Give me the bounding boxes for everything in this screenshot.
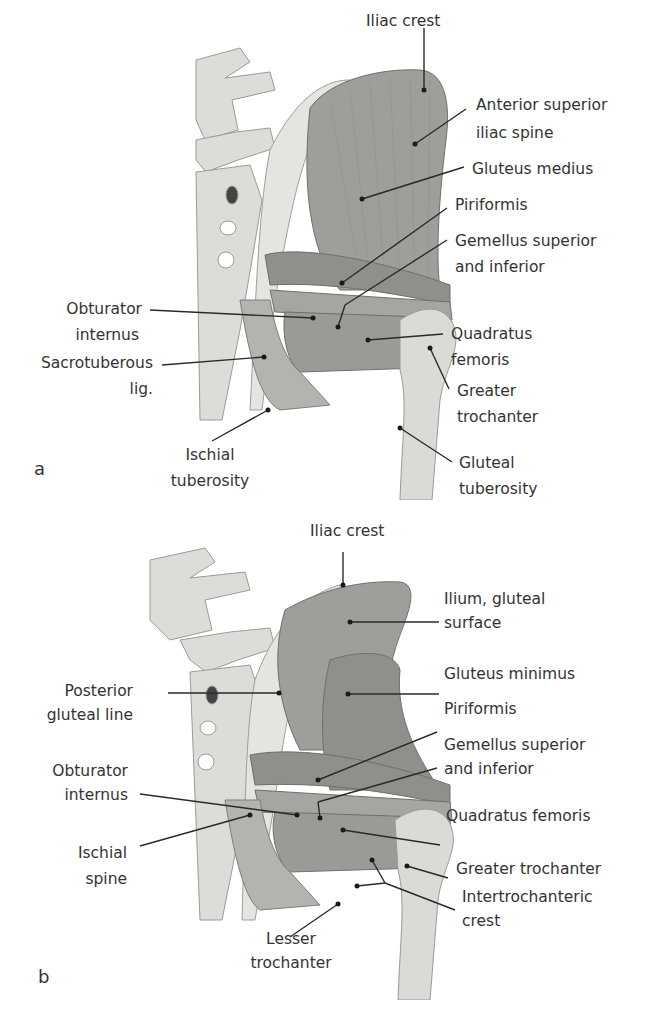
label-quadratus-femoris-line1: Quadratus (451, 325, 532, 344)
label-ischial-spine-line2: spine (85, 870, 127, 889)
label-lesser-trochanter-line2: trochanter (236, 954, 346, 973)
label-piriformis: Piriformis (444, 700, 517, 719)
label-ilium-gluteal-surface-line2: surface (444, 614, 501, 633)
label-lesser-trochanter-line1: Lesser (236, 930, 346, 949)
label-gemellus-line2: and inferior (444, 760, 534, 779)
label-quadratus-femoris: Quadratus femoris (446, 807, 590, 826)
label-intertrochanteric-crest-line1: Intertrochanteric (462, 888, 592, 907)
label-ilium-gluteal-surface-line1: Ilium, gluteal (444, 590, 545, 609)
label-greater-trochanter-line1: Greater (457, 382, 516, 401)
panel-letter-b: b (38, 966, 49, 987)
panel-b: Iliac crest Ilium, gluteal surface Poste… (0, 500, 645, 1000)
label-gemellus-line1: Gemellus superior (444, 736, 585, 755)
label-obturator-internus-line2: internus (64, 786, 128, 805)
label-gemellus-line2: and inferior (455, 258, 545, 277)
label-gluteal-tuberosity-line1: Gluteal (459, 454, 515, 473)
figure-caption-clipped (0, 1015, 645, 1029)
label-ischial-spine-line1: Ischial (78, 844, 127, 863)
panel-a: Iliac crest Anterior superior iliac spin… (0, 0, 645, 500)
label-intertrochanteric-crest-line2: crest (462, 912, 500, 931)
panel-letter-a: a (34, 458, 45, 479)
label-iliac-crest: Iliac crest (310, 522, 384, 541)
label-gemellus-line1: Gemellus superior (455, 232, 596, 251)
label-anterior-superior-iliac-spine-line1: Anterior superior (476, 96, 607, 115)
label-obturator-internus-line1: Obturator (52, 762, 128, 781)
label-piriformis: Piriformis (455, 196, 528, 215)
label-obturator-internus-line2: internus (75, 326, 139, 345)
label-gluteal-tuberosity-line2: tuberosity (459, 480, 537, 499)
label-sacrotuberous-line1: Sacrotuberous (41, 354, 153, 373)
label-greater-trochanter-line2: trochanter (457, 408, 538, 427)
label-ischial-tuberosity-line2: tuberosity (160, 472, 260, 491)
label-posterior-gluteal-line-line1: Posterior (64, 682, 133, 701)
label-iliac-crest: Iliac crest (366, 12, 440, 31)
label-posterior-gluteal-line-line2: gluteal line (47, 706, 133, 725)
label-ischial-tuberosity-line1: Ischial (160, 446, 260, 465)
label-gluteus-medius: Gluteus medius (472, 160, 593, 179)
label-quadratus-femoris-line2: femoris (451, 351, 509, 370)
label-obturator-internus-line1: Obturator (66, 300, 142, 319)
label-sacrotuberous-line2: lig. (130, 380, 153, 399)
label-greater-trochanter: Greater trochanter (456, 860, 601, 879)
label-gluteus-minimus: Gluteus minimus (444, 665, 575, 684)
label-anterior-superior-iliac-spine-line2: iliac spine (476, 124, 553, 143)
